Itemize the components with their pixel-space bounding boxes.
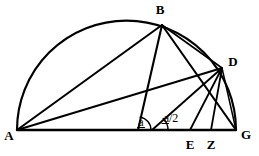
vertex-label-D: D xyxy=(228,54,237,69)
segment-chord-AD xyxy=(17,68,222,130)
segment-chord-BD xyxy=(162,25,222,68)
vertex-label-A: A xyxy=(4,128,14,143)
geometry-figure: A B D E Z G a a/2 xyxy=(0,0,259,156)
vertex-label-G: G xyxy=(241,127,251,142)
angle-label-a-half: a/2 xyxy=(164,111,179,125)
semicircle-arc xyxy=(17,21,236,130)
angle-label-a: a xyxy=(138,115,144,129)
vertex-label-E: E xyxy=(186,137,195,152)
vertex-label-Z: Z xyxy=(207,137,216,152)
segment-ray-V2-D xyxy=(152,68,222,130)
geometry-canvas: A B D E Z G a a/2 xyxy=(0,0,259,156)
vertex-label-B: B xyxy=(156,2,165,17)
